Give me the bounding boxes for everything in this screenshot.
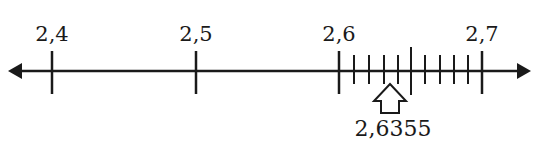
- number-line-diagram: 2,4 2,5 2,6 2,7 2,6355: [0, 0, 539, 147]
- tick-label-2-7: 2,7: [465, 22, 498, 46]
- tick-label-2-6: 2,6: [322, 22, 355, 46]
- right-arrow-icon: [517, 63, 531, 79]
- marker-label: 2,6355: [355, 116, 432, 141]
- left-arrow-icon: [8, 63, 22, 79]
- tick-label-2-4: 2,4: [35, 22, 68, 46]
- up-arrow-marker-icon: [374, 84, 406, 113]
- major-ticks: [52, 51, 482, 94]
- tick-label-2-5: 2,5: [179, 22, 212, 46]
